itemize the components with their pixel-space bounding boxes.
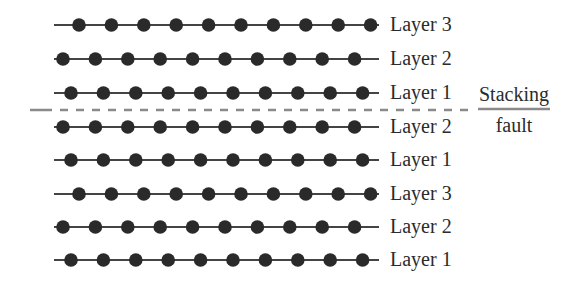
atom-dot xyxy=(89,220,103,234)
atom-dot xyxy=(137,187,151,201)
atom-dot xyxy=(202,187,216,201)
atom-dot xyxy=(56,52,70,66)
atom-dot xyxy=(331,18,345,32)
atom-dot xyxy=(186,220,200,234)
atom-dot xyxy=(161,86,175,100)
atom-dot xyxy=(283,120,297,134)
atom-dot xyxy=(169,187,183,201)
atom-dot xyxy=(348,120,362,134)
atom-dot xyxy=(348,220,362,234)
atom-dot xyxy=(161,253,175,267)
atom-dot xyxy=(186,120,200,134)
atom-dot xyxy=(267,18,281,32)
atom-dot xyxy=(291,86,305,100)
atom-dot xyxy=(315,52,329,66)
atom-dot xyxy=(259,253,273,267)
stacking-fault-diagram xyxy=(0,0,579,282)
stacking-fault-label-bottom: fault xyxy=(469,115,559,135)
atom-dot xyxy=(234,187,248,201)
atom-dot xyxy=(121,220,135,234)
atom-dot xyxy=(169,18,183,32)
atom-dot xyxy=(356,86,370,100)
atom-dot xyxy=(364,18,378,32)
atom-dot xyxy=(129,153,143,167)
atom-dot xyxy=(348,52,362,66)
atom-dot xyxy=(202,18,216,32)
atom-dot xyxy=(121,52,135,66)
atom-dot xyxy=(56,120,70,134)
atom-dot xyxy=(283,220,297,234)
atom-dot xyxy=(323,153,337,167)
atomic-row xyxy=(54,18,379,32)
atom-dot xyxy=(105,187,119,201)
atom-dot xyxy=(56,220,70,234)
atomic-row xyxy=(54,153,379,167)
atom-dot xyxy=(194,86,208,100)
atomic-row xyxy=(54,187,379,201)
atom-dot xyxy=(356,253,370,267)
atom-dot xyxy=(226,153,240,167)
atom-dot xyxy=(226,86,240,100)
atomic-row xyxy=(54,220,379,234)
layer-label: Layer 2 xyxy=(390,48,452,68)
atom-dot xyxy=(251,120,265,134)
atom-dot xyxy=(194,253,208,267)
layer-label: Layer 1 xyxy=(390,82,452,102)
atom-dot xyxy=(299,18,313,32)
atom-dot xyxy=(299,187,313,201)
atom-dot xyxy=(105,18,119,32)
atom-dot xyxy=(364,187,378,201)
layer-label: Layer 2 xyxy=(390,216,452,236)
atom-dot xyxy=(194,153,208,167)
atom-dot xyxy=(356,153,370,167)
atom-dot xyxy=(315,220,329,234)
atom-dot xyxy=(291,153,305,167)
layer-label: Layer 1 xyxy=(390,249,452,269)
atom-dot xyxy=(64,253,78,267)
atomic-row xyxy=(54,120,379,134)
atom-dot xyxy=(218,120,232,134)
atom-dot xyxy=(323,253,337,267)
atom-dot xyxy=(218,52,232,66)
atom-dot xyxy=(153,52,167,66)
atom-dot xyxy=(291,253,305,267)
atom-dot xyxy=(72,18,86,32)
stacking-fault-label-top: Stacking xyxy=(469,84,559,104)
layer-label: Layer 3 xyxy=(390,183,452,203)
atom-dot xyxy=(89,52,103,66)
atom-dot xyxy=(267,187,281,201)
atom-dot xyxy=(137,18,151,32)
atom-dot xyxy=(331,187,345,201)
atomic-row xyxy=(54,86,379,100)
atom-dot xyxy=(97,253,111,267)
atomic-row xyxy=(54,52,379,66)
atom-dot xyxy=(234,18,248,32)
atom-dot xyxy=(161,153,175,167)
atom-dot xyxy=(259,153,273,167)
atom-dot xyxy=(186,52,200,66)
atom-dot xyxy=(64,86,78,100)
layer-label: Layer 2 xyxy=(390,116,452,136)
atom-dot xyxy=(315,120,329,134)
layer-label: Layer 3 xyxy=(390,14,452,34)
atom-dot xyxy=(97,86,111,100)
atom-dot xyxy=(89,120,103,134)
atom-dot xyxy=(97,153,111,167)
atom-dot xyxy=(129,86,143,100)
atom-dot xyxy=(129,253,143,267)
atom-dot xyxy=(153,120,167,134)
atom-dot xyxy=(121,120,135,134)
atom-dot xyxy=(323,86,337,100)
atom-dot xyxy=(72,187,86,201)
atom-dot xyxy=(251,220,265,234)
atomic-row xyxy=(54,253,379,267)
atom-dot xyxy=(218,220,232,234)
atom-dot xyxy=(283,52,297,66)
atom-dot xyxy=(259,86,273,100)
atomic-layers xyxy=(54,18,379,267)
atom-dot xyxy=(64,153,78,167)
atom-dot xyxy=(226,253,240,267)
layer-label: Layer 1 xyxy=(390,149,452,169)
atom-dot xyxy=(251,52,265,66)
atom-dot xyxy=(153,220,167,234)
